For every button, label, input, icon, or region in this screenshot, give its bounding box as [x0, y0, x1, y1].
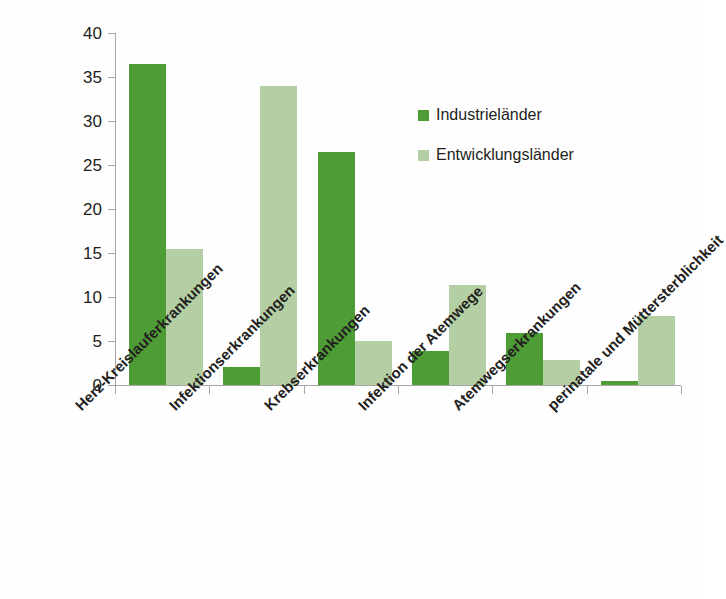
y-tick-label: 5	[40, 333, 102, 350]
x-tick-mark	[681, 386, 682, 394]
x-tick-mark	[398, 386, 399, 394]
y-tick-label: 20	[40, 201, 102, 218]
y-tick-mark	[108, 165, 115, 166]
x-tick-mark	[304, 386, 305, 394]
y-tick-mark	[108, 121, 115, 122]
x-tick-mark	[587, 386, 588, 394]
y-tick-label: 35	[40, 69, 102, 86]
plot-area	[116, 33, 680, 385]
y-tick-mark	[108, 33, 115, 34]
y-tick-mark	[108, 341, 115, 342]
y-tick-label: 10	[40, 289, 102, 306]
legend: Industrieländer Entwicklungsländer	[418, 104, 648, 184]
y-tick-label: 15	[40, 245, 102, 262]
legend-label: Entwicklungsländer	[436, 147, 574, 163]
legend-item-industrielaender[interactable]: Industrieländer	[418, 104, 648, 126]
bar	[601, 381, 638, 385]
x-tick-mark	[209, 386, 210, 394]
legend-swatch-icon	[418, 150, 429, 161]
bar	[260, 86, 297, 385]
y-tick-label: 25	[40, 157, 102, 174]
x-tick-mark	[492, 386, 493, 394]
x-tick-mark	[115, 386, 116, 394]
legend-item-entwicklungslaender[interactable]: Entwicklungsländer	[418, 144, 648, 166]
y-tick-label: 30	[40, 113, 102, 130]
y-tick-mark	[108, 297, 115, 298]
y-tick-label: 40	[40, 25, 102, 42]
legend-swatch-icon	[418, 110, 429, 121]
y-tick-mark	[108, 209, 115, 210]
y-tick-mark	[108, 77, 115, 78]
bar	[223, 367, 260, 385]
bar	[638, 316, 675, 385]
legend-label: Industrieländer	[436, 107, 542, 123]
y-tick-mark	[108, 253, 115, 254]
